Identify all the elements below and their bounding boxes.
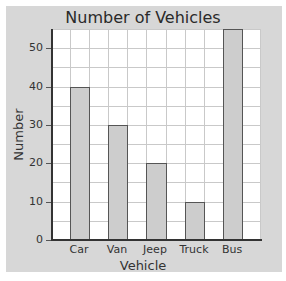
x-axis — [51, 239, 262, 241]
y-tick-mark — [46, 202, 51, 203]
bar-car — [70, 87, 90, 240]
y-axis-label: Number — [11, 105, 26, 165]
y-tick-label: 10 — [17, 195, 43, 208]
plot-border-right — [260, 29, 261, 240]
y-tick-label: 0 — [17, 233, 43, 246]
x-tick-label: Van — [97, 243, 137, 256]
bar-jeep — [146, 163, 167, 240]
y-tick-mark — [46, 48, 51, 49]
y-axis — [51, 29, 53, 241]
y-tick-mark — [46, 240, 51, 241]
bar-van — [108, 125, 128, 240]
x-tick-label: Bus — [212, 243, 252, 256]
bar-bus — [223, 29, 243, 240]
x-tick-label: Jeep — [135, 243, 175, 256]
y-tick-mark — [46, 87, 51, 88]
y-tick-mark — [46, 125, 51, 126]
y-tick-mark — [46, 163, 51, 164]
plot-area — [51, 29, 261, 240]
y-tick-label: 50 — [17, 41, 43, 54]
x-tick-label: Truck — [174, 243, 214, 256]
chart-title: Number of Vehicles — [0, 8, 286, 27]
x-tick-label: Car — [59, 243, 99, 256]
y-tick-label: 40 — [17, 80, 43, 93]
bar-truck — [185, 202, 205, 240]
x-axis-label: Vehicle — [0, 258, 286, 273]
